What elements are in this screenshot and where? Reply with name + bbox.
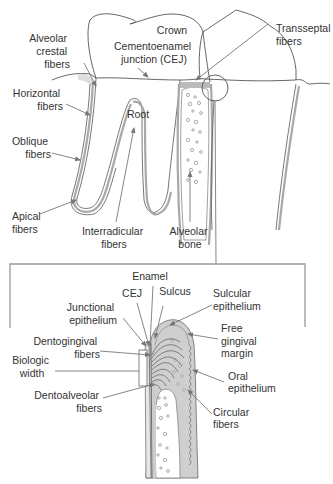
leader-horizontal bbox=[66, 104, 90, 115]
leader-apical bbox=[40, 200, 76, 214]
periodontium-diagram: Crown Cementoenamel junction (CEJ) Alveo… bbox=[0, 0, 333, 484]
label-biologic-width: Biologic width bbox=[12, 354, 52, 379]
label-cej: Cementoenamel junction (CEJ) bbox=[114, 40, 194, 65]
septum-crest bbox=[180, 82, 210, 88]
biologic-width-bracket bbox=[139, 350, 147, 386]
label-transseptal-fibers: Transseptal fibers bbox=[276, 22, 333, 47]
right-tooth-root bbox=[211, 84, 296, 230]
leader-oblique bbox=[52, 153, 80, 160]
inset-panel: Enamel CEJ Sulcus Sulcular epithelium Ju… bbox=[10, 264, 305, 478]
label-interradicular-fibers: Interradicular fibers bbox=[82, 225, 146, 250]
label-free-gingival-margin: Free gingival margin bbox=[221, 322, 260, 359]
right-tooth-mesial bbox=[203, 32, 210, 82]
label-junctional-epithelium: Junctional epithelium bbox=[67, 301, 117, 326]
label-horizontal-fibers: Horizontal fibers bbox=[13, 87, 63, 112]
leader-inset-cej bbox=[137, 303, 149, 346]
label-oral-epithelium: Oral epithelium bbox=[228, 370, 276, 394]
label-crown: Crown bbox=[157, 24, 188, 36]
leader-transseptal bbox=[196, 24, 268, 80]
leader-oral-epithelium bbox=[193, 370, 224, 382]
label-apical-fibers: Apical fibers bbox=[12, 210, 44, 235]
label-root: Root bbox=[127, 108, 149, 120]
label-sulcus: Sulcus bbox=[159, 285, 191, 297]
inset-connector bbox=[215, 101, 216, 264]
label-circular-fibers: Circular fibers bbox=[213, 406, 252, 430]
alveolar-crest-shading bbox=[78, 74, 94, 86]
label-alveolar-crestal-fibers: Alveolar crestal fibers bbox=[29, 32, 70, 70]
label-dentoalveolar-fibers: Dentoalveolar fibers bbox=[34, 389, 102, 414]
pdl-left bbox=[74, 82, 131, 212]
label-inset-cej: CEJ bbox=[122, 287, 142, 299]
leader-sulcular-epithelium bbox=[170, 305, 212, 325]
label-enamel: Enamel bbox=[132, 270, 168, 282]
inset-alveolar-bone bbox=[155, 389, 180, 478]
label-oblique-fibers: Oblique fibers bbox=[12, 135, 51, 160]
pdl-right bbox=[279, 86, 299, 230]
leader-cej bbox=[138, 68, 148, 77]
label-sulcular-epithelium: Sulcular epithelium bbox=[213, 287, 261, 312]
upper-panel: Crown Cementoenamel junction (CEJ) Alveo… bbox=[12, 10, 333, 264]
